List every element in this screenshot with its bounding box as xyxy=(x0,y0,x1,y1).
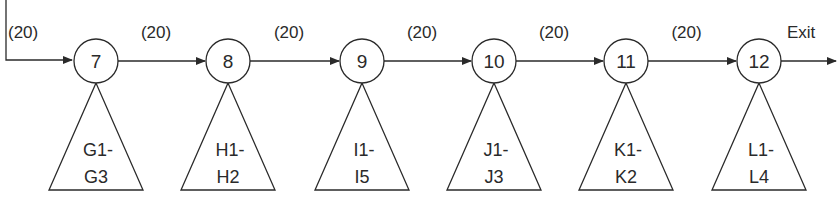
exit-edge: Exit xyxy=(781,23,836,61)
edge-weight-label: (20) xyxy=(274,23,304,42)
node-label: 8 xyxy=(223,51,234,72)
subtree-label: J3 xyxy=(484,167,503,187)
node-label: 7 xyxy=(91,51,102,72)
edge: (20) xyxy=(516,23,603,61)
subtree-label: H1- xyxy=(215,140,244,160)
subtree-label: G1- xyxy=(83,140,113,160)
edge: (20) xyxy=(648,23,736,61)
exit-label: Exit xyxy=(787,23,816,42)
edge: (20) xyxy=(118,23,205,61)
subtree-label: L1- xyxy=(748,140,774,160)
edge-weight-label: (20) xyxy=(141,23,171,42)
subtree-label: I5 xyxy=(354,167,369,187)
node-chain: G1-G37(20)H1-H28(20)I1-I59(20)J1-J310(20… xyxy=(49,23,806,190)
node-label: 10 xyxy=(483,51,504,72)
subtree-label: K2 xyxy=(615,167,637,187)
edge: (20) xyxy=(384,23,471,61)
subtree-label: G3 xyxy=(84,167,108,187)
edge: (20) xyxy=(250,23,339,61)
sequence-diagram: (20) G1-G37(20)H1-H28(20)I1-I59(20)J1-J3… xyxy=(0,0,839,202)
subtree-label: L4 xyxy=(749,167,769,187)
edge-weight-label: (20) xyxy=(407,23,437,42)
subtree-label: J1- xyxy=(483,140,508,160)
node-label: 9 xyxy=(357,51,368,72)
subtree-label: H2 xyxy=(216,167,239,187)
node-label: 11 xyxy=(616,51,636,72)
edge-weight-label: (20) xyxy=(539,23,569,42)
entry-edge: (20) xyxy=(6,0,72,60)
node-label: 12 xyxy=(748,51,769,72)
subtree-label: K1- xyxy=(614,140,642,160)
edge-weight-label: (20) xyxy=(671,23,701,42)
subtree-label: I1- xyxy=(353,140,374,160)
entry-weight-label: (20) xyxy=(8,23,38,42)
